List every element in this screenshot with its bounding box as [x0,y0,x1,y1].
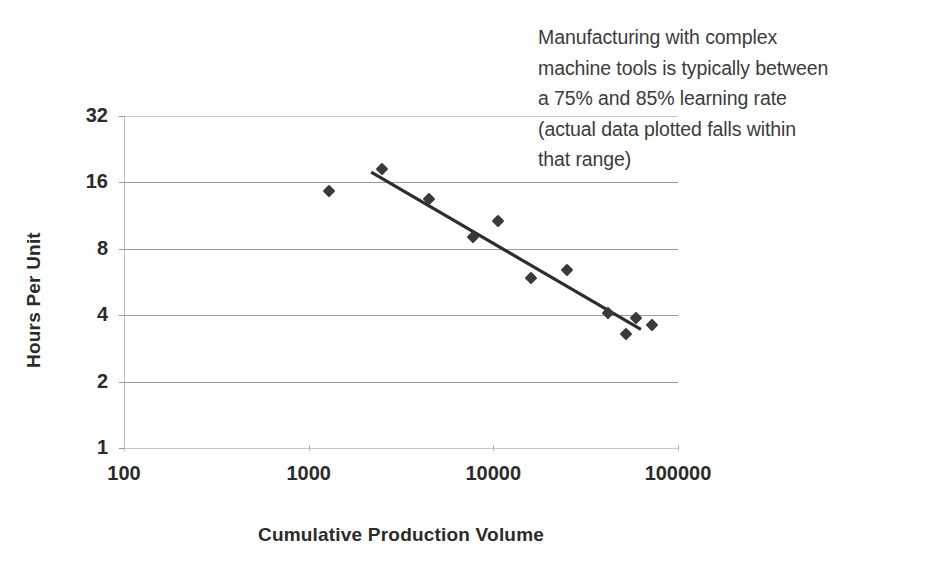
y-axis-tick [119,382,125,383]
data-point-marker [560,264,573,277]
x-axis-tick-label: 1000 [249,462,369,484]
y-axis-tick [119,182,125,183]
y-axis-tick-label: 8 [48,238,108,258]
y-axis-tick-label: 2 [48,371,108,391]
gridline [124,116,678,117]
gridline [124,182,678,183]
plot-area [124,116,678,448]
y-axis-tick-label: 32 [48,105,108,125]
y-axis-tick [119,249,125,250]
x-axis-tick [309,445,310,451]
y-axis-tick-label: 16 [48,171,108,191]
data-point-marker [645,319,658,332]
y-axis-tick-label: 1 [48,437,108,457]
data-point-marker [629,311,642,324]
data-point-marker [525,272,538,285]
gridline [124,249,678,250]
y-axis-tick-label: 4 [48,304,108,324]
data-point-marker [619,327,632,340]
chart-container: Manufacturing with complex machine tools… [0,0,931,570]
y-axis-tick [119,315,125,316]
data-point-marker [423,193,436,206]
x-axis-tick [124,445,125,451]
x-axis-title: Cumulative Production Volume [124,524,678,546]
y-axis-tick [119,116,125,117]
trendline [124,116,678,448]
gridline [124,448,678,449]
x-axis-tick-label: 100 [64,462,184,484]
x-axis-tick [678,445,679,451]
gridline [124,315,678,316]
x-axis-tick [493,445,494,451]
data-point-marker [492,215,505,228]
data-point-marker [323,185,336,198]
gridline [124,382,678,383]
x-axis-tick-label: 10000 [433,462,553,484]
x-axis-tick-label: 100000 [618,462,738,484]
data-point-marker [376,162,389,175]
data-point-marker [467,230,480,243]
data-point-marker [602,306,615,319]
